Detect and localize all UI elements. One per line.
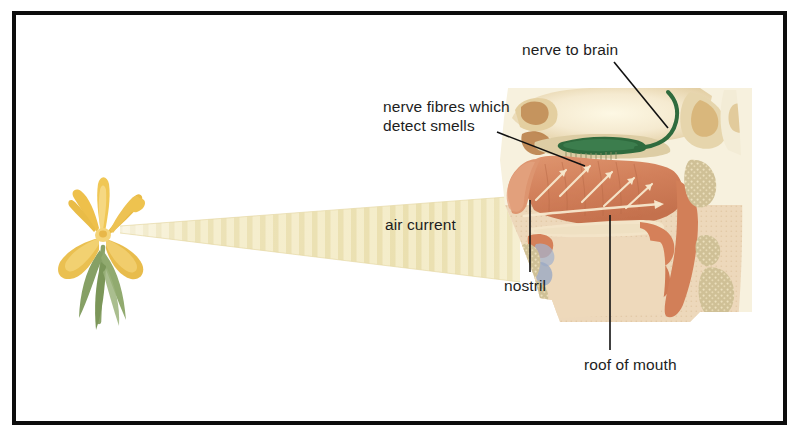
label-nerve-to-brain: nerve to brain <box>522 40 618 59</box>
label-air-current: air current <box>385 215 456 234</box>
label-nostril: nostril <box>504 276 546 295</box>
figure-root: nerve to brain nerve fibres which detect… <box>0 0 800 442</box>
label-nerve-fibres-line1: nerve fibres which <box>383 98 510 115</box>
air-current-shape <box>120 196 520 282</box>
label-roof-of-mouth: roof of mouth <box>584 355 677 374</box>
label-nerve-fibres-line2: detect smells <box>383 117 475 134</box>
iris-flower <box>58 177 145 330</box>
label-nerve-fibres: nerve fibres which detect smells <box>383 97 543 135</box>
